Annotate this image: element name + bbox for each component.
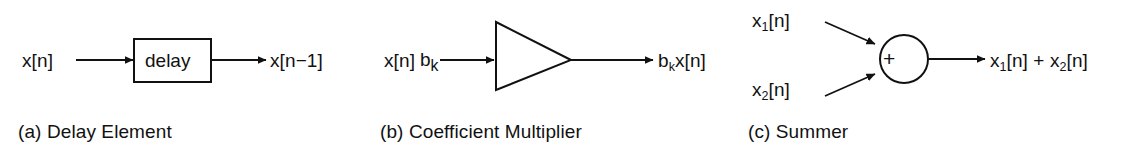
multiplier-coefficient-base: b bbox=[420, 49, 431, 70]
summer-output-subscript-1: 1 bbox=[1000, 60, 1007, 74]
summer-input-1-tail: [n] bbox=[769, 10, 790, 31]
summer-plus-label: + bbox=[883, 48, 895, 69]
panel-delay-element: x[n] delay x[n−1] (a) Delay Element bbox=[0, 0, 375, 157]
summer-input-2-label: x2[n] bbox=[752, 80, 790, 99]
summer-input-2-base: x bbox=[752, 79, 762, 100]
multiplier-output-base: b bbox=[658, 50, 669, 71]
summer-input-1-base: x bbox=[752, 10, 762, 31]
signal-flow-block-diagram: x[n] delay x[n−1] (a) Delay Element x[n] bbox=[0, 0, 1124, 157]
delay-block-label: delay bbox=[145, 51, 190, 70]
delay-input-label: x[n] bbox=[22, 51, 53, 70]
summer-output-tail: [n] bbox=[1067, 50, 1088, 71]
summer-input-1-arrow bbox=[825, 22, 875, 44]
summer-output-base-1: x bbox=[990, 50, 1000, 71]
multiplier-triangle bbox=[496, 22, 571, 90]
summer-output-label: x1[n] + x2[n] bbox=[990, 51, 1088, 70]
summer-output-subscript-2: 2 bbox=[1060, 60, 1067, 74]
multiplier-output-tail: x[n] bbox=[675, 50, 706, 71]
multiplier-input-label: x[n] bbox=[384, 51, 415, 70]
multiplier-coefficient-subscript: k bbox=[431, 57, 439, 74]
multiplier-coefficient-label: bk bbox=[420, 50, 439, 74]
panel-summer: x1[n] x2[n] + x1[n] + x2[n] (c) Summer bbox=[740, 0, 1124, 157]
multiplier-output-subscript: k bbox=[669, 60, 675, 74]
summer-input-2-arrow bbox=[825, 74, 875, 96]
summer-input-2-tail: [n] bbox=[769, 79, 790, 100]
summer-input-2-subscript: 2 bbox=[762, 89, 769, 103]
panel-coefficient-multiplier: x[n] bk bkx[n] (b) Coefficient Multiplie… bbox=[370, 0, 750, 157]
delay-output-label: x[n−1] bbox=[270, 51, 323, 70]
panel-c-caption: (c) Summer bbox=[748, 122, 848, 141]
panel-a-caption: (a) Delay Element bbox=[18, 122, 172, 141]
multiplier-output-label: bkx[n] bbox=[658, 51, 706, 70]
summer-input-1-label: x1[n] bbox=[752, 11, 790, 30]
panel-b-caption: (b) Coefficient Multiplier bbox=[380, 122, 582, 141]
summer-input-1-subscript: 1 bbox=[762, 20, 769, 34]
summer-output-mid: [n] + x bbox=[1007, 50, 1060, 71]
